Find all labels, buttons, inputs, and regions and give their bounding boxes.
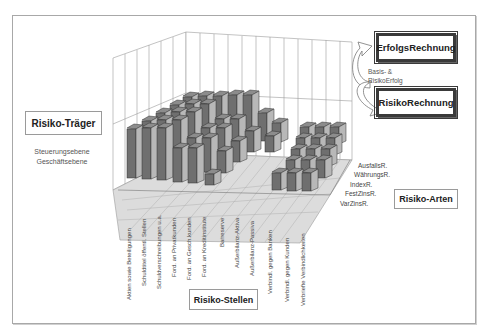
axis-label-schuldverschreibungen: Schuldverschreibungen u.a. bbox=[156, 214, 162, 289]
erfolgsrechnung-title: ErfolgsRechnung bbox=[376, 42, 455, 53]
cycle-label-line-1: Basis- & bbox=[368, 67, 418, 76]
axis-label-festzinsr: FestZinsR. bbox=[345, 190, 377, 197]
cycle-label-line-2: RisikoErfolg bbox=[368, 76, 418, 85]
risiko-stellen-box: Risiko-Stellen bbox=[189, 289, 258, 310]
axis-label-ausfallsr: AusfallsR. bbox=[358, 162, 387, 169]
axis-label-verbindl-banken: Verbindl. gegen Banken bbox=[267, 230, 273, 294]
risikorechnung-title: RisikoRechnung bbox=[379, 97, 454, 108]
risikorechnung-box: RisikoRechnung bbox=[376, 88, 456, 117]
risiko-traeger-levels: Steuerungsebene Geschäftsebene bbox=[22, 147, 102, 167]
cycle-label: Basis- & RisikoErfolg bbox=[368, 67, 418, 85]
risk-type-axis-labels: AusfallsR. WährungsR. IndexR. FestZinsR.… bbox=[340, 162, 390, 207]
level-steuerungsebene: Steuerungsebene bbox=[22, 147, 102, 157]
risiko-traeger-box: Risiko-Träger bbox=[25, 111, 102, 135]
axis-label-schuldtitel: Schuldtitel öffentl. Stellen bbox=[141, 219, 147, 286]
risiko-traeger-title: Risiko-Träger bbox=[32, 118, 96, 129]
axis-label-indexr: IndexR. bbox=[350, 181, 373, 188]
axis-label-barreserve: Barreserve bbox=[219, 217, 225, 247]
axis-label-ford-privat: Ford. an Privatkunden bbox=[171, 218, 177, 277]
axis-label-varzinsr: VarZinsR. bbox=[340, 200, 369, 207]
axis-label-ausserbilanz-passiva: Außerbilanz-Passiva bbox=[249, 220, 255, 276]
risiko-stellen-title: Risiko-Stellen bbox=[194, 295, 254, 305]
axis-label-ausserbilanz-aktiva: Außerbilanz-Aktiva bbox=[234, 217, 240, 268]
erfolgsrechnung-box: ErfolgsRechnung bbox=[376, 33, 456, 62]
risiko-arten-box: Risiko-Arten bbox=[394, 189, 458, 209]
axis-label-waehrungsr: WährungsR. bbox=[354, 171, 390, 179]
axis-label-ford-kredit: Ford. an Kreditinstitute bbox=[201, 216, 207, 277]
axis-label-verbriefte: Verbriefte Verbindlichkeiten bbox=[300, 233, 306, 306]
level-geschaeftsebene: Geschäftsebene bbox=[22, 157, 102, 167]
axis-label-aktien: Aktien sowie Beteiligungen bbox=[126, 228, 132, 300]
axis-label-ford-gesch: Ford. an Gesch.kunden bbox=[186, 217, 192, 280]
risiko-arten-title: Risiko-Arten bbox=[399, 194, 453, 204]
axis-label-verbindl-kunden: Verbindl. gegen Kunden bbox=[284, 238, 290, 302]
